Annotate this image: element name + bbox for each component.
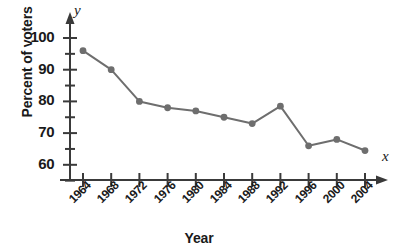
data-point-marker: [333, 136, 340, 143]
data-point-marker: [108, 66, 115, 73]
axis-lines: [60, 12, 388, 185]
data-point-marker: [249, 120, 256, 127]
y-axis-tick-label: 80: [12, 91, 54, 108]
line-chart-plot: [0, 0, 398, 252]
y-axis-tick-label: 70: [12, 123, 54, 140]
x-axis-title: Year: [0, 230, 398, 246]
data-point-marker: [136, 98, 143, 105]
y-axis-tick-label: 90: [12, 60, 54, 77]
chart-container: Percent of voters y x 60708090100 196419…: [0, 0, 398, 252]
data-point-marker: [305, 142, 312, 149]
y-axis-tick-label: 100: [12, 28, 54, 45]
data-point-marker: [192, 108, 199, 115]
y-axis-tick-label: 60: [12, 155, 54, 172]
data-point-markers: [80, 47, 369, 154]
data-point-marker: [221, 114, 228, 121]
data-point-marker: [277, 103, 284, 110]
data-point-marker: [80, 47, 87, 54]
data-series-line: [83, 51, 365, 151]
data-point-marker: [362, 147, 369, 154]
data-point-marker: [164, 104, 171, 111]
